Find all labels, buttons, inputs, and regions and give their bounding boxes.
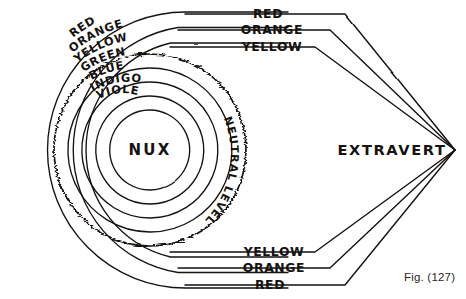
lead-label-bottom-yellow: YELLOW	[243, 244, 305, 259]
figure-caption: Fig. (127)	[404, 271, 455, 283]
lead-label-top-yellow: YELLOW	[241, 39, 303, 54]
neutral-level-label: NEUTRAL LEVEL	[202, 115, 241, 228]
lead-label-bottom-orange: ORANGE	[243, 260, 305, 275]
lead-line-bottom-red	[185, 150, 455, 285]
lead-label-top-orange: ORANGE	[241, 22, 303, 37]
lead-line-bottom-yellow	[170, 150, 455, 252]
center-label-nux: NUX	[129, 141, 172, 159]
figure-drawing: RED ORANGE YELLOW GREEN BLUE INDIGO VIOL…	[0, 0, 466, 299]
vertex-label-extravert: EXTRAVERT	[338, 141, 447, 158]
lead-label-top-red: RED	[253, 6, 283, 21]
lead-label-bottom-red: RED	[255, 277, 285, 292]
lead-line-top-yellow	[170, 47, 455, 150]
figure-127-container: RED ORANGE YELLOW GREEN BLUE INDIGO VIOL…	[0, 0, 466, 299]
